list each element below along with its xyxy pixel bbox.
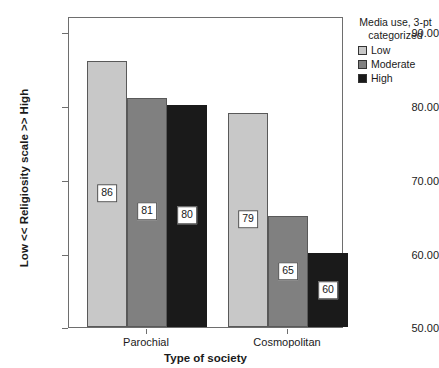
y-tick-label-80: 80.00 [381, 102, 439, 113]
legend-label-low: Low [371, 45, 390, 56]
legend-title: Media use, 3-pt categorized [352, 16, 439, 41]
legend-swatch-high-icon [358, 74, 367, 83]
legend-title-line2: categorized [352, 29, 439, 42]
plot-area: 86 81 80 79 65 60 [68, 17, 343, 328]
legend-item-low: Low [358, 43, 439, 57]
legend-items: Low Moderate High [352, 43, 439, 85]
bar-value-parochial-moderate: 81 [137, 202, 157, 220]
bar-value-parochial-low: 86 [97, 184, 117, 202]
legend-swatch-low-icon [358, 46, 367, 55]
x-tick-label-parochial: Parochial [123, 337, 169, 348]
y-axis-title: Low << Religiosity scale >> High [18, 58, 30, 298]
y-tick-label-70: 70.00 [381, 176, 439, 187]
y-tick-label-60: 60.00 [381, 250, 439, 261]
bar-value-cosmopolitan-low: 79 [238, 210, 258, 228]
x-axis-title: Type of society [68, 352, 343, 364]
legend-label-high: High [371, 73, 393, 84]
bar-value-parochial-high: 80 [177, 206, 197, 224]
x-tick-mark-cosmopolitan [287, 329, 288, 334]
legend-swatch-moderate-icon [358, 60, 367, 69]
bar-value-cosmopolitan-moderate: 65 [278, 262, 298, 280]
bar-value-cosmopolitan-high: 60 [318, 281, 338, 299]
legend-title-line1: Media use, 3-pt [352, 16, 439, 29]
legend-item-high: High [358, 71, 439, 85]
y-tick-label-50: 50.00 [381, 323, 439, 334]
legend-label-moderate: Moderate [371, 59, 415, 70]
x-tick-label-cosmopolitan: Cosmopolitan [253, 337, 320, 348]
x-tick-mark-parochial [146, 329, 147, 334]
bar-chart: 90.00 80.00 70.00 60.00 50.00 Low << Rel… [0, 0, 439, 368]
y-tick-mark-50 [62, 328, 68, 329]
plot-inner: 86 81 80 79 65 60 [69, 18, 342, 327]
legend: Media use, 3-pt categorized Low Moderate… [352, 16, 439, 85]
legend-item-moderate: Moderate [358, 57, 439, 71]
